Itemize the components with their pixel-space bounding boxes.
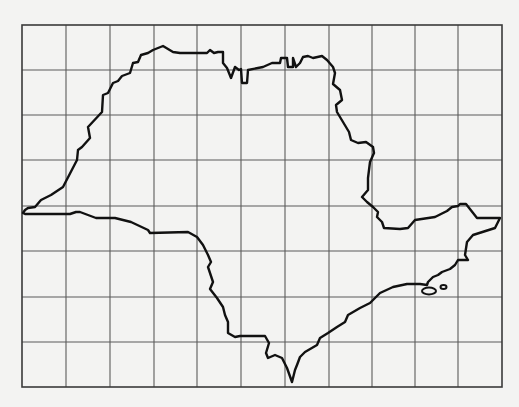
coastal-islands — [422, 285, 447, 295]
island — [422, 288, 436, 295]
coordinate-grid — [22, 25, 502, 387]
island — [441, 285, 447, 289]
state-outline — [23, 46, 500, 382]
map-canvas — [0, 0, 519, 407]
